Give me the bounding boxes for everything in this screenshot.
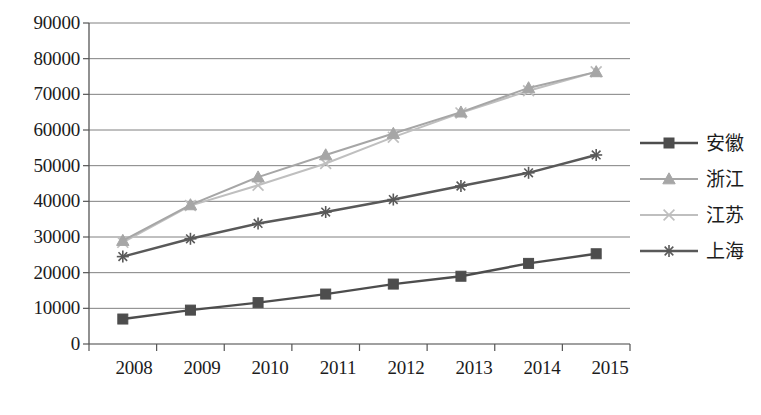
y-tick-label: 40000 — [2, 191, 80, 210]
y-tick-label: 50000 — [2, 156, 80, 175]
data-point-marker — [591, 249, 601, 259]
legend-item-1[interactable] — [640, 173, 698, 184]
y-tick-label: 80000 — [2, 49, 80, 68]
legend-item-label-anhui: 安徽 — [706, 134, 744, 153]
series-2 — [117, 66, 601, 247]
legend-item-label-zhejiang: 浙江 — [706, 170, 744, 189]
x-tick-label: 2013 — [439, 358, 509, 377]
data-point-marker — [185, 305, 195, 315]
legend-item-label-shanghai: 上海 — [706, 242, 744, 261]
data-point-marker — [253, 298, 263, 308]
y-tick-label: 10000 — [2, 298, 80, 317]
chart-canvas — [0, 0, 761, 415]
legend-item-3[interactable] — [640, 245, 698, 257]
y-tick-label: 30000 — [2, 227, 80, 246]
data-point-marker — [118, 314, 128, 324]
legend-item-label-jiangsu: 江苏 — [706, 206, 744, 225]
x-tick-label: 2009 — [167, 358, 237, 377]
series-line — [123, 72, 596, 242]
y-tick-label: 0 — [2, 334, 80, 353]
series-1 — [117, 66, 603, 246]
y-tick-label: 70000 — [2, 84, 80, 103]
series-line — [123, 72, 596, 241]
y-tick-label: 90000 — [2, 13, 80, 32]
data-point-marker — [664, 138, 674, 148]
x-tick-label: 2011 — [303, 358, 373, 377]
series-0 — [118, 249, 601, 324]
data-point-marker — [321, 289, 331, 299]
x-tick-label: 2010 — [235, 358, 305, 377]
legend-item-0[interactable] — [640, 138, 698, 148]
legend-item-2[interactable] — [640, 210, 698, 221]
line-chart: 90000 80000 70000 60000 50000 40000 3000… — [0, 0, 761, 415]
y-tick-label: 60000 — [2, 120, 80, 139]
x-tick-label: 2008 — [99, 358, 169, 377]
data-point-marker — [456, 271, 466, 281]
x-tick-label: 2015 — [575, 358, 645, 377]
x-tick-label: 2014 — [507, 358, 577, 377]
y-tick-label: 20000 — [2, 263, 80, 282]
data-point-marker — [388, 279, 398, 289]
x-tick-label: 2012 — [371, 358, 441, 377]
data-point-marker — [524, 258, 534, 268]
